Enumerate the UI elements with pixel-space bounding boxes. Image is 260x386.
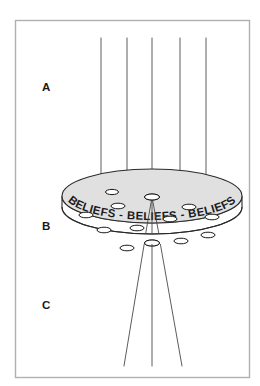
section-label-a: A	[42, 82, 50, 94]
disc-hole	[97, 227, 111, 233]
disc-hole	[182, 204, 196, 210]
disc-hole	[201, 232, 215, 238]
disc-hole	[106, 189, 119, 194]
disc-hole	[120, 245, 134, 251]
disc-hole	[130, 225, 144, 231]
disc-hole-convergence-overlay	[145, 194, 160, 200]
section-label-c: C	[42, 300, 50, 312]
disc-hole	[111, 203, 125, 209]
disc-hole	[174, 238, 188, 244]
diagram-canvas: BELIEFS - BELIEFS - BELIEFS	[0, 0, 260, 386]
disc-hole	[163, 216, 177, 222]
beliefs-filter-diagram: BELIEFS - BELIEFS - BELIEFS	[0, 0, 260, 386]
disc-hole	[205, 214, 219, 220]
section-label-b: B	[42, 221, 50, 233]
disc-hole	[79, 212, 93, 218]
